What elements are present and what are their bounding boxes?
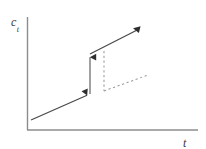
data-series-group — [31, 29, 148, 120]
x-axis-label: t — [183, 134, 186, 149]
consumption-path-figure: ct t — [0, 0, 206, 149]
axes-group — [27, 17, 198, 130]
x-axis-label-variable: t — [183, 136, 186, 149]
y-axis-label: ct — [11, 13, 19, 32]
counterfactual-path — [104, 75, 148, 91]
y-axis-label-variable: c — [11, 15, 16, 29]
pre-jump-consumption-path — [31, 95, 87, 120]
y-axis-label-subscript: t — [17, 25, 19, 34]
post-jump-consumption-path — [90, 29, 138, 54]
figure-canvas — [0, 0, 206, 149]
